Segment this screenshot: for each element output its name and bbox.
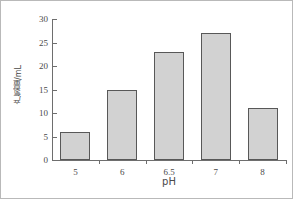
bar <box>107 90 137 161</box>
y-tick-mark <box>53 137 57 138</box>
bar <box>201 33 231 160</box>
y-tick-label: 15 <box>39 85 48 94</box>
bar <box>60 132 90 160</box>
plot-area: 051015202530 566.578 <box>52 19 286 160</box>
y-tick-label: 20 <box>39 62 48 71</box>
y-tick-label: 10 <box>39 109 48 118</box>
y-tick-mark <box>53 113 57 114</box>
x-tick-mark <box>99 160 100 164</box>
y-tick-label: 5 <box>44 132 49 141</box>
x-axis-title: pH <box>52 176 286 187</box>
x-tick-mark <box>286 160 287 164</box>
bar-chart-figure: 产氢量/mL 051015202530 566.578 pH <box>0 0 293 199</box>
y-tick-mark <box>53 19 57 20</box>
y-tick-mark <box>53 43 57 44</box>
y-tick-mark <box>53 66 57 67</box>
x-tick-mark <box>192 160 193 164</box>
y-tick-mark <box>53 160 57 161</box>
y-tick-label: 0 <box>44 156 49 165</box>
y-axis-title: 产氢量/mL <box>11 47 25 123</box>
x-axis-line <box>52 160 286 161</box>
y-tick-label: 30 <box>39 15 48 24</box>
y-tick-label: 25 <box>39 38 48 47</box>
y-tick-mark <box>53 90 57 91</box>
bar <box>154 52 184 160</box>
x-tick-mark <box>146 160 147 164</box>
bar <box>248 108 278 160</box>
x-tick-mark <box>239 160 240 164</box>
